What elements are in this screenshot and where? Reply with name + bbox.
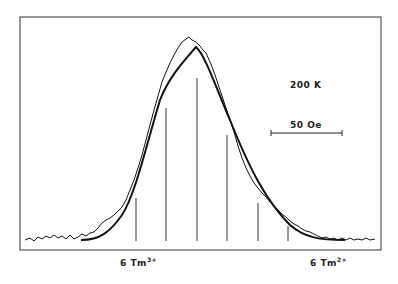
tm3-label: 6 Tm3+: [120, 256, 157, 268]
fit-curve: [81, 47, 345, 240]
temperature-label: 200 K: [290, 80, 321, 90]
tm2-label: 6 Tm2+: [310, 256, 347, 268]
experimental-curve: [25, 37, 375, 241]
epr-spectrum-plot: [0, 0, 398, 284]
scale-bar-label: 50 Oe: [290, 120, 322, 130]
